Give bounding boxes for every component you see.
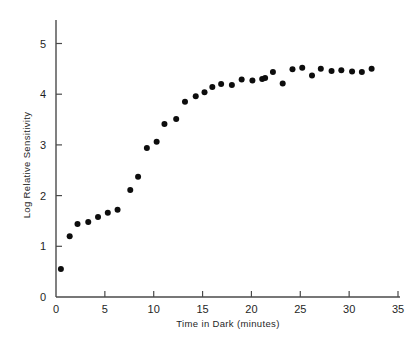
y-tick-label: 5 [40,38,46,50]
x-tick-label: 25 [294,303,306,315]
y-tick-label: 2 [40,190,46,202]
data-point [193,93,199,99]
data-point [299,65,305,71]
y-tick-label: 3 [40,139,46,151]
x-tick-label: 20 [245,303,257,315]
y-tick-label: 0 [40,291,46,303]
data-point [359,69,365,75]
data-point [182,99,188,105]
data-point [289,66,295,72]
data-point [218,81,224,87]
data-point [95,214,101,220]
data-point [144,145,150,151]
data-point [58,266,64,272]
figure-container: 012345 05101520253035 Time in Dark (minu… [0,0,419,345]
x-axis-ticks: 05101520253035 [53,291,404,315]
data-point [135,174,141,180]
plot-axes [56,20,400,297]
x-tick-label: 30 [343,303,355,315]
y-axis-ticks: 012345 [40,38,62,304]
data-point [239,77,245,83]
data-point-group [58,65,375,272]
y-axis-title: Log Relative Sensitivity [21,112,32,219]
x-tick-label: 15 [196,303,208,315]
data-point [270,69,276,75]
data-point [202,89,208,95]
data-point [115,207,121,213]
data-point [349,68,355,74]
y-tick-label: 4 [40,88,46,100]
x-tick-label: 35 [392,303,404,315]
data-point [75,221,81,227]
data-point [262,75,268,81]
data-point [67,233,73,239]
data-point [329,68,335,74]
data-point [280,81,286,87]
y-tick-label: 1 [40,240,46,252]
data-point [105,210,111,216]
data-point [127,187,133,193]
x-tick-label: 0 [53,303,59,315]
data-point [154,139,160,145]
data-point [173,116,179,122]
data-point [85,219,91,225]
data-point [369,66,375,72]
data-point [318,66,324,72]
x-tick-label: 10 [148,303,160,315]
x-axis-title: Time in Dark (minutes) [176,318,279,329]
x-tick-label: 5 [102,303,108,315]
data-point [229,82,235,88]
data-point [309,72,315,78]
data-point [209,84,215,90]
data-point [161,121,167,127]
data-point [249,78,255,84]
scatter-plot: 012345 05101520253035 Time in Dark (minu… [0,0,419,345]
data-point [338,67,344,73]
